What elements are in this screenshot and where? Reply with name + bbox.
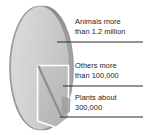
callout-plants-line1: Plants about <box>75 93 117 103</box>
callout-plants: Plants about 300,000 <box>75 93 117 112</box>
callout-animals-line2: than 1.2 million <box>75 27 126 37</box>
callout-others: Others more than 100,000 <box>75 61 119 80</box>
callout-plants-line2: 300,000 <box>75 103 117 113</box>
callout-animals-line1: Animals more <box>75 17 126 27</box>
pie-chart-figure: Animals more than 1.2 million Others mor… <box>0 0 144 135</box>
callout-others-line1: Others more <box>75 61 119 71</box>
callout-animals: Animals more than 1.2 million <box>75 17 126 36</box>
pie-slice-plants-exploded <box>38 66 69 128</box>
callout-others-line2: than 100,000 <box>75 71 119 81</box>
